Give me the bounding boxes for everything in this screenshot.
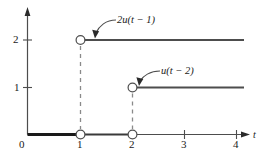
leader-line-u [140, 71, 160, 81]
y-axis-arrowhead [25, 7, 31, 16]
y-tick-label-2: 2 [13, 34, 19, 45]
step-function-figure: 2 1 0 1 2 3 4 t 2u(t − 1) u(t − 2) [0, 0, 263, 164]
leader-2u-t-minus-1 [92, 20, 116, 39]
series-u-open-marker-top [128, 83, 137, 92]
origin-label-0: 0 [19, 139, 25, 150]
x-axis-variable-label: t [253, 130, 256, 140]
x-tick-label-4: 4 [233, 139, 239, 150]
y-axis [25, 7, 31, 135]
x-tick-label-2: 2 [129, 139, 135, 150]
leader-line-2u [96, 20, 116, 33]
x-tick-label-1: 1 [77, 139, 83, 150]
annotation-2u-t-minus-1: 2u(t − 1) [117, 15, 155, 26]
x-tick-label-3: 3 [181, 139, 187, 150]
x-axis-arrowhead [241, 132, 250, 138]
series-2u-open-marker-top [76, 36, 85, 45]
leader-u-t-minus-2 [136, 71, 160, 86]
series-u-t-minus-2 [128, 83, 244, 139]
y-tick-label-1: 1 [14, 82, 20, 93]
annotation-u-t-minus-2: u(t − 2) [161, 66, 194, 77]
leader-arrowhead-2u [92, 30, 99, 39]
